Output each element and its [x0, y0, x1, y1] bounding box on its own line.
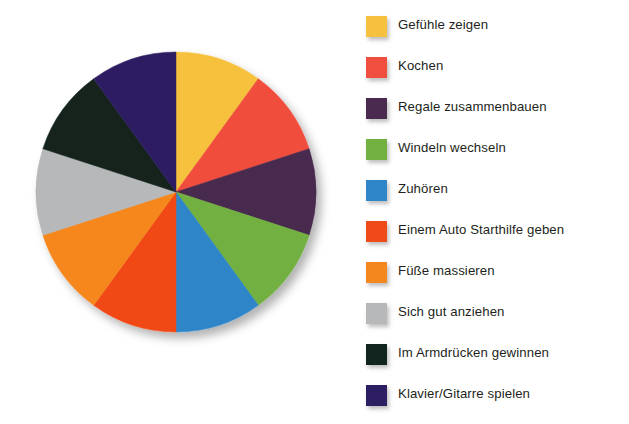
legend-item-label: Windeln wechseln: [398, 137, 506, 158]
legend-color-swatch: [366, 221, 387, 242]
legend-color-swatch: [366, 16, 387, 37]
pie-chart: [36, 52, 316, 332]
legend-color-swatch: [366, 303, 387, 324]
legend-color-swatch: [366, 262, 387, 283]
legend-item-label: Regale zusammenbauen: [398, 96, 547, 117]
legend-item-label: Kochen: [398, 55, 443, 76]
legend-color-swatch: [366, 344, 387, 365]
legend-item[interactable]: Kochen: [366, 55, 621, 96]
legend-item[interactable]: Im Armdrücken gewinnen: [366, 342, 621, 383]
legend-item[interactable]: Sich gut anziehen: [366, 301, 621, 342]
legend-item-label: Füße massieren: [398, 260, 495, 281]
legend-item[interactable]: Klavier/Gitarre spielen: [366, 383, 621, 424]
legend-color-swatch: [366, 57, 387, 78]
legend-item[interactable]: Füße massieren: [366, 260, 621, 301]
legend-item-label: Gefühle zeigen: [398, 14, 488, 35]
legend-item-label: Einem Auto Starthilfe geben: [398, 219, 564, 240]
legend-item[interactable]: Gefühle zeigen: [366, 14, 621, 55]
legend-item-label: Sich gut anziehen: [398, 301, 505, 322]
legend-color-swatch: [366, 385, 387, 406]
legend-item[interactable]: Windeln wechseln: [366, 137, 621, 178]
legend-color-swatch: [366, 139, 387, 160]
legend-item[interactable]: Einem Auto Starthilfe geben: [366, 219, 621, 260]
chart-legend: Gefühle zeigenKochenRegale zusammenbauen…: [366, 14, 621, 424]
legend-color-swatch: [366, 180, 387, 201]
legend-item-label: Zuhören: [398, 178, 448, 199]
legend-item[interactable]: Zuhören: [366, 178, 621, 219]
legend-item-label: Klavier/Gitarre spielen: [398, 383, 530, 404]
legend-color-swatch: [366, 98, 387, 119]
pie-slice-group: [36, 52, 316, 332]
legend-item[interactable]: Regale zusammenbauen: [366, 96, 621, 137]
pie-chart-svg: [36, 52, 316, 332]
legend-item-label: Im Armdrücken gewinnen: [398, 342, 549, 363]
